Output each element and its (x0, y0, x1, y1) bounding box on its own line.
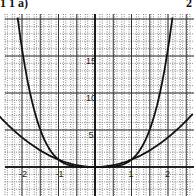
y-tick-label: 10 (86, 93, 96, 103)
function-graph: -2-11251015 (0, 0, 194, 196)
curve-1 (0, 113, 193, 167)
x-tick-label: 2 (165, 169, 170, 179)
y-tick-label: 15 (86, 56, 96, 66)
x-tick-label: -2 (19, 169, 27, 179)
x-tick-label: -1 (56, 169, 64, 179)
x-tick-label: 1 (129, 169, 134, 179)
y-tick-label: 5 (88, 130, 93, 140)
